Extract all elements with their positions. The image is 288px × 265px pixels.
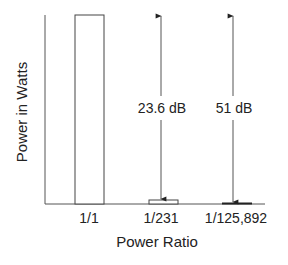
- power-ratio-chart: 23.6 dB 51 dB 1/1 1/231 1/125,892 Power …: [0, 0, 288, 265]
- x-axis-label: Power Ratio: [116, 233, 198, 250]
- y-axis-label: Power in Watts: [13, 62, 30, 162]
- annotation-51db: 51 dB: [216, 100, 253, 116]
- bar-1-1: [75, 15, 104, 204]
- x-tick-1-125892: 1/125,892: [205, 210, 267, 226]
- bar-1-231: [149, 200, 178, 204]
- x-tick-1-1: 1/1: [79, 210, 99, 226]
- annotation-23-6db: 23.6 dB: [138, 100, 186, 116]
- x-tick-1-231: 1/231: [143, 210, 178, 226]
